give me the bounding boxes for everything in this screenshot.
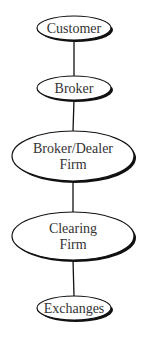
node-broker: Broker [37, 76, 113, 102]
flow-diagram: CustomerBrokerBroker/DealerFirmClearingF… [0, 0, 145, 337]
node-label: Broker/Dealer [33, 141, 113, 156]
connector-broker-to-broker-dealer-firm [73, 100, 74, 131]
node-label: Exchanges [44, 301, 105, 316]
node-label: Customer [47, 21, 102, 36]
node-ellipse [12, 131, 134, 181]
node-label: Clearing [49, 221, 97, 236]
node-ellipse [12, 212, 134, 260]
node-label: Broker [55, 81, 94, 96]
connector-clearing-firm-to-exchanges [73, 260, 74, 296]
node-customer: Customer [37, 16, 113, 42]
node-broker-dealer-firm: Broker/DealerFirm [12, 131, 136, 183]
node-label: Firm [59, 157, 86, 172]
node-label: Firm [59, 237, 86, 252]
node-exchanges: Exchanges [37, 296, 113, 322]
node-clearing-firm: ClearingFirm [12, 212, 136, 262]
